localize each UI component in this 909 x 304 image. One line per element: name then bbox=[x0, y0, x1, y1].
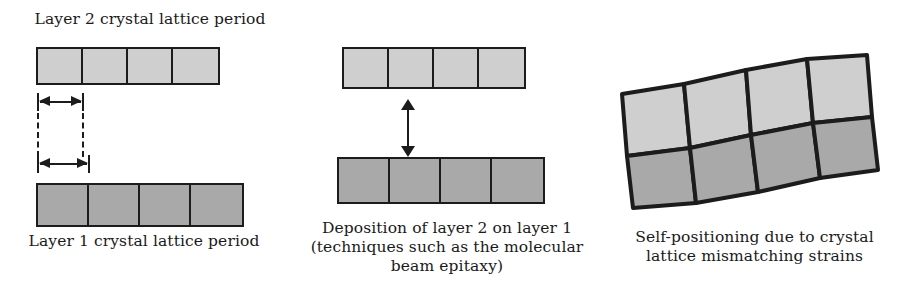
lattice-cell bbox=[434, 49, 479, 87]
crystal-lattice-mismatch-figure: Layer 2 crystal lattice period bbox=[0, 0, 909, 304]
panel-deposition-step: Deposition of layer 2 on layer 1 (techni… bbox=[292, 0, 602, 304]
layer-2-period-arrow bbox=[37, 93, 84, 111]
strained-curved-lattice bbox=[610, 44, 890, 214]
projection-line-left bbox=[37, 113, 39, 157]
lattice-cell bbox=[441, 159, 492, 202]
layer-1-period-arrow bbox=[37, 155, 90, 173]
panel-strained-lattice-result: Self-positioning due to crystal lattice … bbox=[600, 0, 909, 304]
arrow-head-down-icon bbox=[401, 146, 415, 157]
arrow-head-right-icon bbox=[71, 96, 82, 106]
lattice-cell bbox=[622, 84, 690, 156]
projection-line-right bbox=[82, 113, 84, 157]
lattice-cell bbox=[492, 159, 543, 202]
deposition-caption: Deposition of layer 2 on layer 1 (techni… bbox=[292, 219, 602, 276]
arrow-head-left-icon bbox=[39, 158, 50, 168]
lattice-cell bbox=[38, 185, 89, 225]
lattice-cell bbox=[813, 117, 878, 178]
lattice-cell bbox=[690, 135, 758, 203]
lattice-cell bbox=[89, 185, 140, 225]
layer-2-lattice-row bbox=[36, 47, 220, 85]
arrow-head-left-icon bbox=[39, 96, 50, 106]
lattice-cell bbox=[627, 148, 696, 208]
layer-1-period-label: Layer 1 crystal lattice period bbox=[0, 232, 288, 251]
deposited-layer-2-row bbox=[342, 47, 526, 89]
lattice-cell bbox=[807, 55, 872, 123]
lattice-cell bbox=[389, 49, 434, 87]
layer-1-lattice-row bbox=[36, 183, 244, 227]
arrow-shaft bbox=[407, 105, 409, 151]
self-positioning-caption: Self-positioning due to crystal lattice … bbox=[600, 228, 909, 266]
lattice-cell bbox=[344, 49, 389, 87]
lattice-cell bbox=[751, 123, 820, 192]
measure-tick-end bbox=[82, 93, 84, 111]
lattice-cell bbox=[479, 49, 524, 87]
lattice-cell bbox=[140, 185, 191, 225]
arrow-head-right-icon bbox=[77, 158, 88, 168]
lattice-cell bbox=[173, 49, 218, 83]
lattice-cell bbox=[83, 49, 128, 83]
lattice-cell bbox=[38, 49, 83, 83]
measure-tick-end bbox=[88, 155, 90, 173]
substrate-layer-1-row bbox=[337, 157, 545, 204]
lattice-cell bbox=[339, 159, 390, 202]
lattice-cell bbox=[128, 49, 173, 83]
lattice-cell bbox=[191, 185, 242, 225]
deposition-direction-arrow bbox=[399, 99, 417, 157]
layer-2-period-label: Layer 2 crystal lattice period bbox=[0, 10, 300, 29]
lattice-cell bbox=[390, 159, 441, 202]
panel-lattice-period-comparison: Layer 2 crystal lattice period bbox=[0, 0, 300, 304]
